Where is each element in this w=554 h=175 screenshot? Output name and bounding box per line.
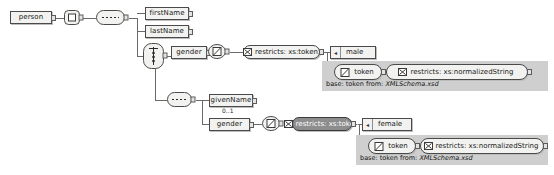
sequence-icon — [167, 92, 196, 108]
connector — [230, 52, 243, 53]
panel-caption-top: base: token from: XMLSchema.xsd — [326, 80, 439, 88]
enumeration-female[interactable]: ◂ female — [362, 118, 412, 131]
choice-node[interactable] — [143, 43, 168, 69]
element-firstname-label: firstName — [146, 10, 187, 17]
connector-stub — [319, 49, 324, 55]
derivation-panel-bottom: token restricts: xs:normalizedString bas… — [356, 135, 548, 165]
connector-stub — [527, 69, 532, 75]
element-givenname-occurrence: 0..1 — [222, 107, 233, 114]
connector — [129, 18, 137, 19]
derivation-panel-top: token restricts: xs:normalizedString bas… — [322, 61, 548, 91]
element-gender-top-label: gender — [173, 49, 204, 56]
restriction-node-bottom-selected[interactable]: restricts: xs:token — [292, 117, 352, 131]
complextype-icon — [64, 10, 83, 26]
element-lastname-label: lastName — [147, 28, 187, 35]
panel-base-node-top-label: token — [354, 68, 380, 76]
element-givenname-label: givenName — [208, 97, 255, 104]
complextype-node[interactable] — [64, 10, 83, 26]
sequence-node[interactable] — [96, 10, 129, 26]
simpletype-icon — [262, 116, 284, 132]
connector — [155, 100, 167, 101]
panel-base-node-top[interactable]: token — [334, 64, 382, 80]
connector-stub — [351, 121, 356, 127]
panel-restriction-bottom[interactable]: restricts: xs:normalizedString — [420, 138, 544, 154]
connector-stub — [188, 11, 193, 17]
choice-icon — [143, 43, 168, 69]
enumeration-male-label: male — [341, 49, 369, 56]
panel-base-node-bottom[interactable]: token — [368, 138, 416, 154]
connector — [202, 100, 203, 124]
enumeration-female-label: female — [373, 121, 408, 128]
panel-restriction-top-label: restricts: xs:normalizedString — [410, 68, 520, 76]
element-person-label: person — [16, 14, 47, 21]
restriction-node-top[interactable]: restricts: xs:token — [243, 45, 320, 59]
sequence-icon — [96, 10, 129, 26]
restriction-top-label: restricts: xs:token — [255, 48, 325, 56]
enumeration-male[interactable]: ◂ male — [330, 46, 376, 59]
connector — [137, 13, 145, 14]
restriction-icon — [243, 48, 252, 56]
connector-stub — [188, 29, 193, 35]
panel-caption-bottom: base: token from: XMLSchema.xsd — [360, 154, 473, 162]
simpletype-icon — [374, 142, 385, 151]
element-gender-top[interactable]: gender — [171, 46, 207, 59]
connector-stub — [249, 122, 254, 128]
element-gender-bottom-label: gender — [214, 121, 245, 128]
connector — [83, 18, 96, 19]
simpletype-node-bottom[interactable] — [262, 116, 284, 132]
restriction-icon — [284, 120, 293, 128]
element-firstname[interactable]: firstName — [145, 7, 189, 20]
simpletype-icon — [208, 44, 230, 60]
sequence-node-bottom[interactable] — [167, 92, 196, 108]
element-person[interactable]: person — [10, 11, 52, 24]
element-givenname[interactable]: givenName — [209, 94, 253, 107]
connector-stub — [543, 143, 548, 149]
panel-caption-top-file: XMLSchema.xsd — [385, 80, 438, 88]
connector — [202, 124, 209, 125]
element-gender-bottom[interactable]: gender — [209, 118, 250, 131]
simpletype-icon — [340, 68, 351, 77]
enum-marker-icon: ◂ — [331, 47, 341, 58]
connector — [137, 18, 138, 56]
panel-restriction-top[interactable]: restricts: xs:normalizedString — [386, 64, 528, 80]
connector-stub — [51, 15, 56, 21]
connector — [137, 31, 145, 32]
element-lastname[interactable]: lastName — [145, 25, 189, 38]
panel-caption-bottom-file: XMLSchema.xsd — [419, 154, 472, 162]
panel-caption-top-prefix: base: token from: — [326, 80, 385, 88]
simpletype-node-top[interactable] — [208, 44, 230, 60]
panel-restriction-bottom-label: restricts: xs:normalizedString — [436, 142, 545, 150]
panel-caption-bottom-prefix: base: token from: — [360, 154, 419, 162]
schema-diagram-canvas[interactable]: person firstName lastName — [0, 0, 554, 175]
connector-stub — [252, 98, 257, 104]
panel-base-node-bottom-label: token — [388, 142, 414, 150]
restriction-icon — [424, 142, 433, 150]
restriction-icon — [398, 68, 407, 76]
enum-marker-icon: ◂ — [363, 119, 373, 130]
